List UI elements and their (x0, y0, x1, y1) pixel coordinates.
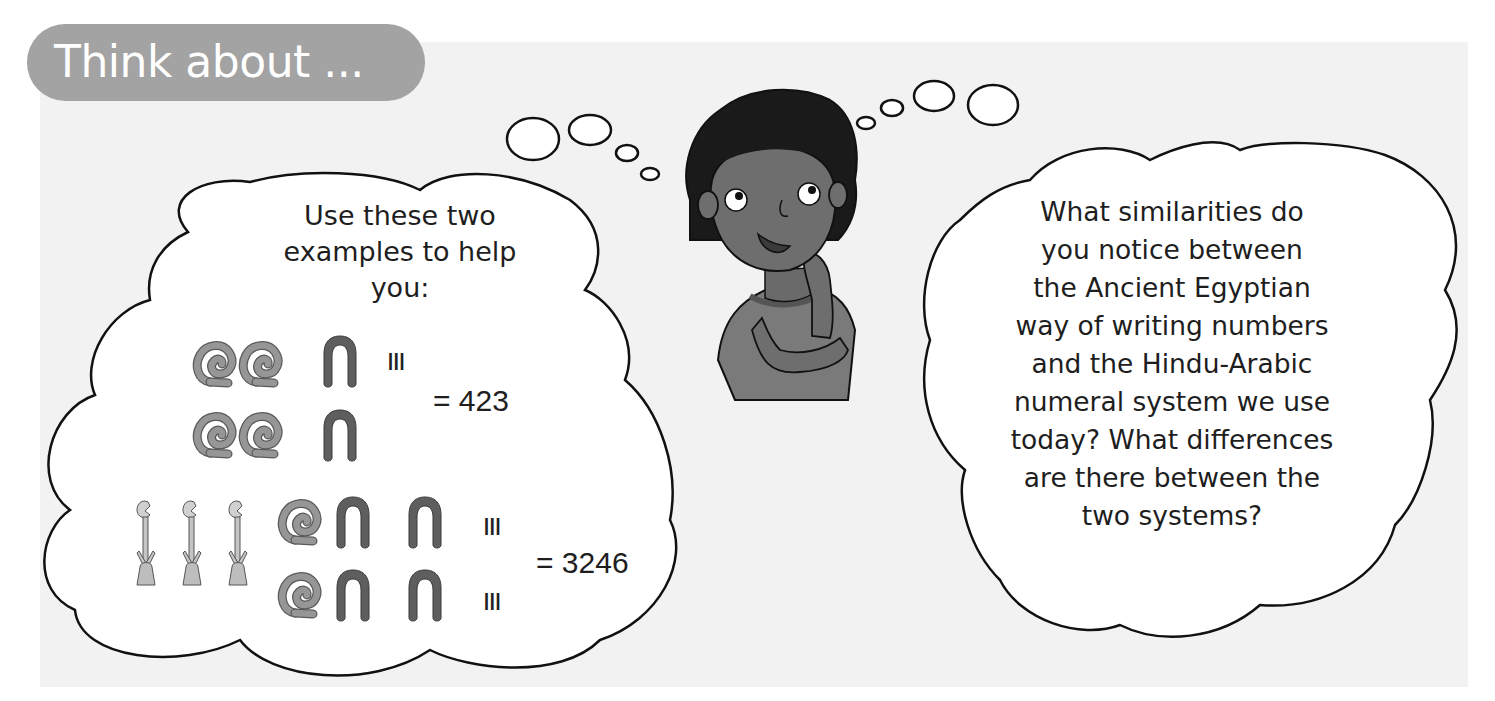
left-cloud-prompt: Use these two examples to help you: (225, 198, 575, 306)
equals-423: = 423 (433, 384, 509, 418)
question-line: you notice between (962, 231, 1382, 269)
equals-3246: = 3246 (536, 546, 629, 580)
thought-bubble (616, 145, 638, 161)
question-line: are there between the (962, 459, 1382, 497)
thinking-boy-illustration (686, 90, 856, 400)
question-line: two systems? (962, 497, 1382, 535)
question-line: and the Hindu-Arabic (962, 345, 1382, 383)
prompt-line: you: (225, 270, 575, 306)
thought-bubble (914, 81, 954, 111)
units-strokes: III (388, 348, 405, 376)
thought-bubble (881, 100, 903, 116)
thought-bubble (507, 118, 559, 160)
question-line: numeral system we use (962, 383, 1382, 421)
question-line: today? What differences (962, 421, 1382, 459)
question-line: What similarities do (962, 193, 1382, 231)
thought-bubble (857, 117, 875, 129)
right-cloud-question: What similarities do you notice between … (962, 193, 1382, 535)
prompt-line: Use these two (225, 198, 575, 234)
question-line: the Ancient Egyptian (962, 269, 1382, 307)
units-strokes: III (484, 588, 501, 616)
thought-bubble (968, 85, 1018, 125)
units-strokes: III (484, 513, 501, 541)
thought-bubble (569, 115, 611, 145)
prompt-line: examples to help (225, 234, 575, 270)
thought-bubble (641, 168, 659, 180)
question-line: way of writing numbers (962, 307, 1382, 345)
